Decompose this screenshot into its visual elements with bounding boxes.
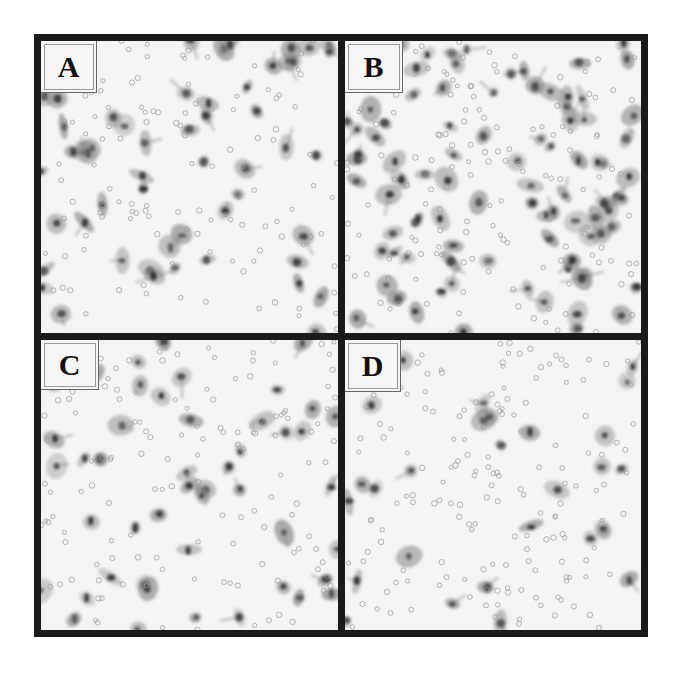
panel-d: D (345, 340, 641, 630)
panel-label-a: A (41, 41, 97, 93)
panel-b: B (345, 41, 641, 333)
panel-label-d: D (345, 340, 401, 392)
panel-c: C (41, 340, 338, 630)
panel-a: A (41, 41, 338, 333)
figure-frame: A B C D (34, 34, 648, 637)
panel-label-b: B (345, 41, 403, 93)
panel-label-c: C (41, 340, 99, 390)
